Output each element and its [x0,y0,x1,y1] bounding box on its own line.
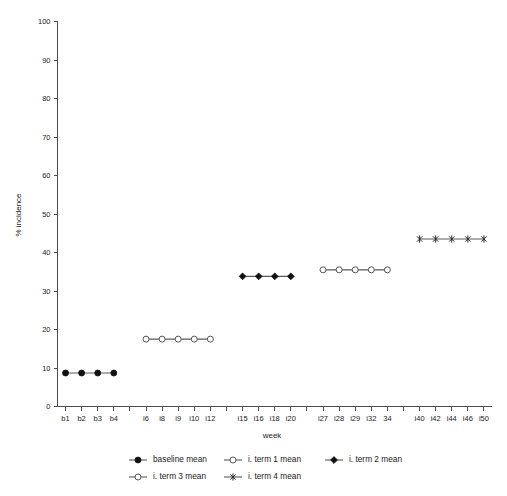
y-axis: 0102030405060708090100 [38,17,58,411]
data-point-open-circle [320,267,326,273]
x-tick-label: i28 [334,414,344,423]
y-tick-label: 0 [46,402,50,411]
legend-item-i-term-3-mean[interactable]: i. term 3 mean [129,471,206,481]
x-tick-label: i42 [431,414,441,423]
y-axis-title: % incidence [14,193,23,237]
legend-label: baseline mean [153,454,207,464]
legend-item-i-term-2-mean[interactable]: i. term 2 mean [325,454,402,464]
data-point-filled-circle [79,370,85,376]
y-tick-label: 30 [42,287,50,296]
x-tick-label: i32 [366,414,376,423]
data-point-filled-diamond [255,273,262,280]
data-point-open-circle [191,336,197,342]
data-point-open-circle [352,267,358,273]
data-point-filled-circle [111,370,117,376]
legend-item-i-term-1-mean[interactable]: i. term 1 mean [224,454,301,464]
y-tick-label: 10 [42,364,50,373]
series-baseline-mean [63,370,117,376]
legend-item-i-term-4-mean[interactable]: i. term 4 mean [224,471,301,481]
x-axis: b1b2b3b4i6i8i9i10i12i15i16i18i20i27i28i2… [58,407,493,423]
legend-label: i. term 3 mean [153,471,206,481]
x-tick-label: i10 [189,414,199,423]
x-tick-label: i12 [205,414,215,423]
series-i-term-4-mean [417,235,487,242]
x-tick-label: i15 [238,414,248,423]
x-tick-label: i8 [159,414,165,423]
data-point-filled-diamond [287,273,294,280]
data-point-filled-diamond [331,457,338,464]
data-point-open-circle [336,267,342,273]
x-tick-label: i40 [415,414,425,423]
series-i-term-3-mean [320,267,390,273]
data-point-open-circle [175,336,181,342]
legend-item-baseline-mean[interactable]: baseline mean [129,454,207,464]
x-tick-label: i29 [350,414,360,423]
data-point-open-circle [230,457,236,463]
x-tick-label: b3 [94,414,102,423]
x-tick-label: i46 [463,414,473,423]
x-tick-label: i20 [286,414,296,423]
x-tick-label: i18 [270,414,280,423]
x-tick-label: i9 [175,414,181,423]
data-point-open-circle [143,336,149,342]
data-point-open-circle [384,267,390,273]
x-axis-title: week [262,431,283,440]
x-tick-label: i27 [318,414,328,423]
data-point-open-circle [368,267,374,273]
data-point-open-circle [207,336,213,342]
data-point-open-circle [135,474,141,480]
data-point-filled-circle [95,370,101,376]
x-tick-label: i6 [143,414,149,423]
y-tick-label: 60 [42,171,50,180]
chart-container: 0102030405060708090100 b1b2b3b4i6i8i9i10… [0,0,507,496]
incidence-line-chart: 0102030405060708090100 b1b2b3b4i6i8i9i10… [0,0,507,496]
x-tick-label: i16 [254,414,264,423]
y-tick-label: 80 [42,94,50,103]
x-tick-label: i50 [479,414,489,423]
x-tick-label: i44 [447,414,457,423]
data-point-filled-circle [63,370,69,376]
y-tick-label: 100 [38,17,51,26]
data-point-filled-diamond [239,273,246,280]
chart-legend: baseline meani. term 1 meani. term 2 mea… [129,454,402,481]
series-i-term-1-mean [143,336,213,342]
y-tick-label: 20 [42,325,50,334]
x-tick-label: 34 [383,414,391,423]
data-point-filled-circle [135,457,141,463]
data-point-open-circle [159,336,165,342]
x-tick-label: b4 [110,414,118,423]
series-i-term-2-mean [239,273,294,280]
legend-label: i. term 2 mean [349,454,402,464]
legend-label: i. term 1 mean [248,454,301,464]
y-tick-label: 40 [42,248,50,257]
x-tick-label: b1 [61,414,69,423]
y-tick-label: 90 [42,56,50,65]
legend-label: i. term 4 mean [248,471,301,481]
y-tick-label: 50 [42,210,50,219]
series-layer [63,235,487,376]
data-point-filled-diamond [271,273,278,280]
x-tick-label: b2 [77,414,85,423]
y-tick-label: 70 [42,133,50,142]
